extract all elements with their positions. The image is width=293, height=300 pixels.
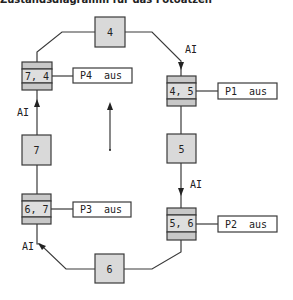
arrow-head-top-right	[178, 62, 184, 70]
edge-label-left: AI	[17, 107, 29, 118]
arrow-head-left	[34, 99, 40, 107]
edge-4-to-45	[125, 32, 181, 76]
edge-label-bottom-left: AI	[22, 241, 34, 252]
edge-56-to-6	[124, 240, 181, 269]
state-4-label: 4	[107, 27, 113, 38]
state-6: 6	[95, 254, 124, 283]
transition-7-4: 7, 4	[22, 62, 52, 90]
arrow-head-right	[178, 188, 184, 196]
transition-6-7-label: 6, 7	[24, 204, 48, 215]
state-7-label: 7	[33, 145, 39, 156]
action-p1-label: P1 aus	[225, 86, 267, 97]
edge-74-to-4	[37, 32, 95, 62]
action-p3: P3 aus	[73, 202, 131, 217]
state-5-label: 5	[178, 144, 184, 155]
state-6-label: 6	[106, 264, 112, 275]
action-p2-label: P2 aus	[225, 219, 267, 230]
transition-5-6-label: 5, 6	[169, 218, 193, 229]
action-p3-label: P3 aus	[80, 204, 122, 215]
direction-arrow-icon	[107, 102, 113, 110]
action-p4-label: P4 aus	[80, 70, 122, 81]
transition-5-6: 5, 6	[167, 208, 196, 240]
action-p4: P4 aus	[73, 68, 132, 83]
state-7: 7	[22, 135, 51, 165]
edge-6-to-67	[37, 224, 95, 269]
edge-label-right: AI	[190, 179, 202, 190]
action-p2: P2 aus	[218, 216, 277, 232]
transition-7-4-label: 7, 4	[25, 71, 49, 82]
action-p1: P1 aus	[218, 83, 277, 99]
transition-6-7: 6, 7	[22, 194, 51, 224]
edge-label-top-right: AI	[185, 44, 197, 55]
direction-arrow-tail	[109, 149, 111, 151]
transition-4-5: 4, 5	[167, 76, 196, 106]
state-diagram: 4 5 6 7 7, 4 4, 5 5, 6 6, 7 P4	[0, 0, 293, 300]
state-5: 5	[167, 134, 196, 163]
state-4: 4	[95, 17, 125, 47]
transition-4-5-label: 4, 5	[169, 86, 193, 97]
